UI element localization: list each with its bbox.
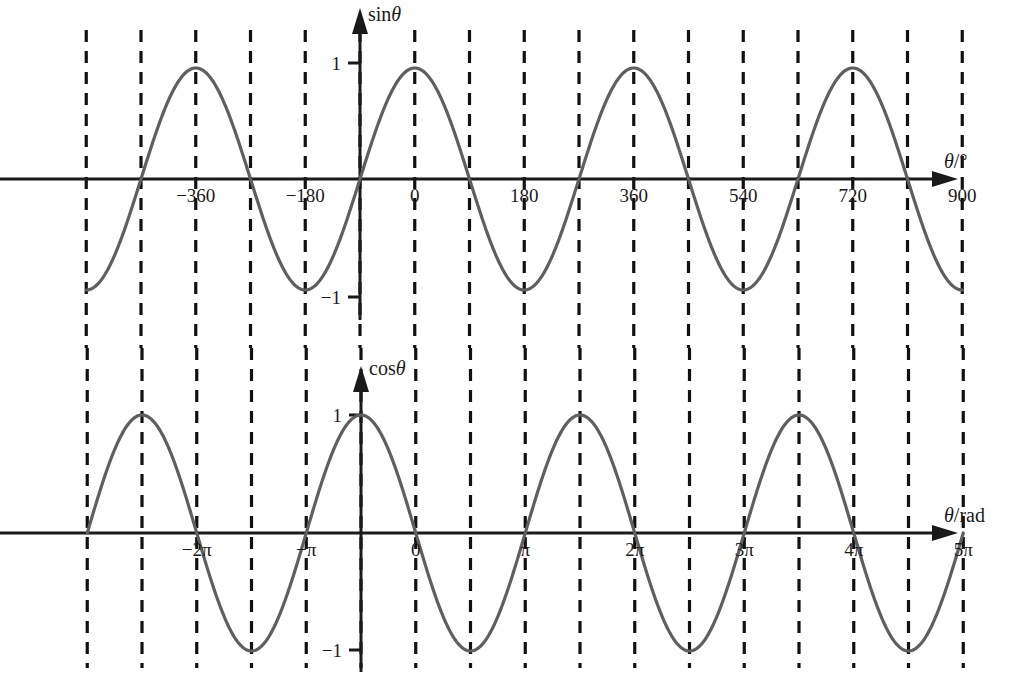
x-tick-label: 4π	[844, 540, 863, 559]
x-tick-label: 900	[948, 186, 977, 205]
x-tick-label: −π	[296, 540, 316, 559]
cosine-x-axis-theta: θ	[944, 504, 954, 526]
gridlines-cosine	[87, 348, 963, 668]
sine-axis-title: sinθ	[368, 4, 401, 24]
graph-canvas	[0, 0, 1018, 696]
cosine-axis-title-theta: θ	[396, 357, 406, 379]
x-tick-label: 3π	[735, 540, 754, 559]
cosine-chart-axes	[0, 366, 958, 672]
x-tick-label: 540	[729, 186, 758, 205]
cosine-y-tick-positive-one: 1	[333, 406, 343, 425]
sine-x-axis-theta: θ	[944, 150, 954, 172]
x-tick-label: 360	[620, 186, 649, 205]
sine-y-tick-negative-one: −1	[321, 288, 341, 307]
trig-graphs-figure: sinθ θ/° 1 −1 −360−1800180360540720900 c…	[0, 0, 1018, 696]
x-tick-label: 0	[411, 540, 421, 559]
x-tick-label: −360	[176, 186, 215, 205]
x-tick-label: 180	[510, 186, 539, 205]
x-tick-label: 0	[410, 186, 420, 205]
sine-axis-title-theta: θ	[391, 3, 401, 25]
x-tick-label: 2π	[625, 540, 644, 559]
cosine-axis-title: cosθ	[369, 358, 406, 378]
x-tick-label: 5π	[954, 540, 973, 559]
cosine-x-axis-unit: /rad	[954, 504, 985, 526]
sine-x-axis-unit: /°	[954, 150, 968, 172]
sine-axis-title-fn: sin	[368, 3, 391, 25]
x-tick-label: π	[520, 540, 530, 559]
sine-chart-axes	[0, 8, 958, 320]
x-tick-label: −2π	[182, 540, 212, 559]
sine-y-tick-positive-one: 1	[332, 54, 342, 73]
sine-x-axis-title: θ/°	[944, 151, 967, 171]
cosine-x-axis-title: θ/rad	[944, 505, 985, 525]
cosine-axis-title-fn: cos	[369, 357, 396, 379]
x-tick-label: −180	[286, 186, 325, 205]
cosine-y-tick-negative-one: −1	[322, 641, 342, 660]
x-tick-label: 720	[839, 186, 868, 205]
